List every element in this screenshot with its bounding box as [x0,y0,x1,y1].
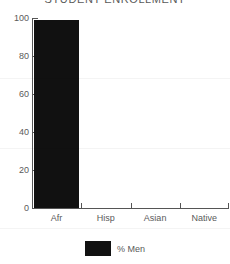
chart-title: STUDENT ENROLLMENT [0,0,230,5]
x-axis-label-afr: Afr [51,213,63,223]
x-axis-label-hisp: Hisp [97,213,115,223]
y-tick-label: 60 [19,90,29,99]
x-axis-line [32,208,229,209]
x-tick-mark [228,203,229,208]
y-tick-label: 0 [24,204,29,213]
x-axis-label-native: Native [192,213,218,223]
x-tick-mark [180,203,181,208]
legend-label-men: % Men [117,244,145,254]
bar-afr [34,20,79,208]
x-tick-mark [131,203,132,208]
scan-artifact [0,228,230,229]
y-axis-line [32,18,33,209]
plot-area: 020406080100 [32,18,229,208]
y-tick-label: 80 [19,52,29,61]
y-tick-mark [33,208,38,209]
y-tick: 0 [32,208,38,209]
y-tick: 100 [32,18,38,19]
x-tick-mark [81,203,82,208]
legend-swatch-men [85,241,111,256]
chart-legend: % Men [0,241,230,256]
y-tick-label: 40 [19,128,29,137]
bar-chart: STUDENT ENROLLMENT Percent of Total Stud… [0,0,230,264]
y-tick-label: 100 [14,14,29,23]
x-axis-label-asian: Asian [144,213,167,223]
y-tick-label: 20 [19,166,29,175]
y-tick-mark [33,18,38,19]
